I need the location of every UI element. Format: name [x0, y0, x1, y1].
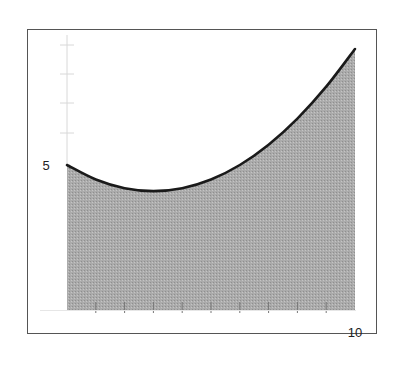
y-axis-faint-ticks [60, 35, 74, 165]
x-tick-label-10: 10 [348, 325, 362, 340]
y-tick-label-5: 5 [42, 158, 49, 173]
area-chart: 5 10 [0, 0, 401, 377]
